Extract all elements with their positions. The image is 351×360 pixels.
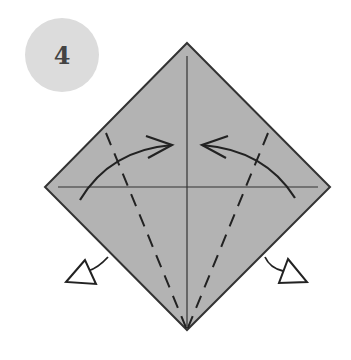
hollow-arrow-right-icon	[265, 257, 307, 283]
origami-fold-diagram	[0, 0, 351, 360]
hollow-arrow-left-icon	[66, 257, 108, 284]
